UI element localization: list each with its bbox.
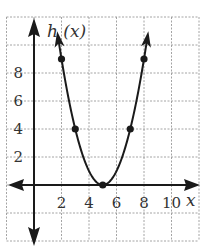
x-tick-label: 8 xyxy=(139,194,149,212)
series-h-of-x xyxy=(55,31,151,188)
x-tick-label: 6 xyxy=(112,194,122,212)
y-tick-label: 2 xyxy=(13,148,23,166)
y-tick-label: 4 xyxy=(13,120,23,138)
data-point xyxy=(99,181,106,188)
y-tick-label: 8 xyxy=(13,64,23,82)
x-tick-label: 4 xyxy=(84,194,94,212)
graph-h-of-x: 2468102468 h (x) x xyxy=(0,0,204,250)
y-axis-label: h (x) xyxy=(47,21,86,41)
data-point xyxy=(72,125,79,132)
x-axis-left-arrow-icon xyxy=(8,179,24,191)
data-point xyxy=(58,55,65,62)
data-point xyxy=(127,125,134,132)
parabola-curve xyxy=(58,37,147,185)
data-point xyxy=(140,55,147,62)
x-tick-label: 2 xyxy=(57,194,67,212)
tick-labels: 2468102468 xyxy=(13,64,181,212)
x-axis-label: x xyxy=(186,190,196,210)
y-tick-label: 6 xyxy=(13,92,23,110)
x-tick-label: 10 xyxy=(162,194,181,212)
